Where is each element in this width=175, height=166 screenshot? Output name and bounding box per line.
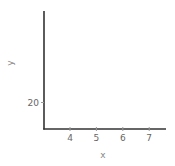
x-tick-label: 4 (67, 133, 73, 143)
x-tick-label: 6 (120, 133, 126, 143)
x-tick-label: 5 (94, 133, 100, 143)
y-tick-label: 20 (28, 98, 40, 108)
y-axis-label: y (5, 60, 15, 66)
x-axis-label: x (100, 150, 106, 160)
x-tick-label: 7 (146, 133, 152, 143)
y-ticks: 20304050 (28, 0, 44, 108)
scatter-chart: 20304050 4567 x y (0, 0, 175, 166)
